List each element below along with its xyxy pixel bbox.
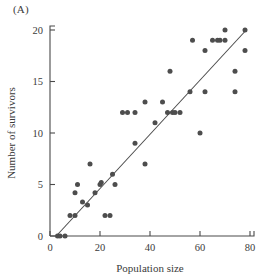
y-tick-label: 15: [33, 76, 44, 87]
data-point: [93, 190, 98, 195]
y-tick-label: 5: [38, 179, 43, 190]
figure-panel-a: (A) 05101520 020406080 Population size N…: [0, 0, 273, 279]
data-point: [85, 203, 90, 208]
data-point: [210, 38, 215, 43]
data-point: [153, 120, 158, 125]
data-point: [165, 110, 170, 115]
x-tick-label: 40: [145, 242, 156, 253]
data-point: [178, 110, 183, 115]
regression-line: [56, 30, 246, 236]
y-tick-label: 0: [38, 231, 43, 242]
data-point: [133, 141, 138, 146]
data-point: [143, 100, 148, 105]
data-point: [73, 213, 78, 218]
data-point: [108, 213, 113, 218]
data-point: [63, 234, 68, 239]
x-tick-label: 80: [245, 242, 256, 253]
regression-line-group: [56, 30, 246, 236]
data-point: [188, 89, 193, 94]
y-tick-label: 20: [33, 25, 44, 36]
data-point: [233, 69, 238, 74]
data-point: [88, 161, 93, 166]
data-point: [168, 69, 173, 74]
data-point: [203, 89, 208, 94]
data-point: [75, 182, 80, 187]
data-point: [125, 110, 130, 115]
data-point: [110, 172, 115, 177]
y-axis-title: Number of survivors: [5, 87, 17, 179]
data-point: [58, 234, 63, 239]
data-point: [99, 180, 104, 185]
axes: [50, 26, 254, 236]
y-axis-line: [50, 26, 55, 236]
data-point: [143, 161, 148, 166]
data-point: [68, 213, 73, 218]
x-tick-label: 60: [195, 242, 206, 253]
data-point: [190, 38, 195, 43]
data-point: [80, 200, 85, 205]
data-point: [133, 110, 138, 115]
data-point: [120, 110, 125, 115]
data-point: [218, 38, 223, 43]
x-axis-title: Population size: [116, 262, 184, 274]
scatter-plot: 05101520 020406080 Population size Numbe…: [0, 0, 273, 279]
data-point: [160, 100, 165, 105]
x-tick-label: 0: [47, 242, 52, 253]
y-tick-label: 10: [33, 128, 44, 139]
data-point: [113, 182, 118, 187]
data-point: [223, 38, 228, 43]
x-tick-label: 20: [95, 242, 106, 253]
data-point: [103, 213, 108, 218]
data-point: [73, 190, 78, 195]
data-point: [243, 28, 248, 33]
x-axis-line: [50, 231, 254, 236]
data-point: [198, 131, 203, 136]
data-point: [223, 28, 228, 33]
data-point: [203, 48, 208, 53]
x-axis-ticks: 020406080: [47, 231, 255, 253]
data-point: [233, 89, 238, 94]
y-axis-ticks: 05101520: [33, 25, 56, 242]
data-point: [243, 48, 248, 53]
data-point: [173, 110, 178, 115]
